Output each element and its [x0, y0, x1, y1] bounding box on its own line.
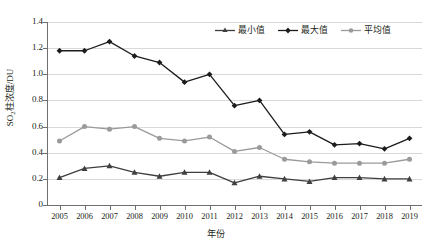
- data-point-marker: [382, 161, 387, 166]
- data-point-marker: [57, 138, 62, 143]
- data-point-marker: [332, 161, 337, 166]
- data-point-marker: [332, 142, 338, 148]
- data-point-marker: [182, 138, 187, 143]
- series-最小值: [57, 163, 413, 186]
- data-point-marker: [357, 161, 362, 166]
- legend-label-min: 最小值: [238, 24, 265, 36]
- data-point-marker: [82, 48, 88, 54]
- data-point-marker: [232, 149, 237, 154]
- legend-label-max: 最大值: [301, 24, 328, 36]
- series-line: [60, 127, 410, 164]
- x-axis-title: 年份: [0, 229, 432, 240]
- legend-swatch-max-icon: [278, 26, 298, 35]
- data-point-marker: [382, 146, 388, 152]
- chart-legend: 最小值 最大值 平均值: [215, 24, 391, 36]
- data-point-marker: [257, 145, 262, 150]
- data-point-marker: [82, 124, 87, 129]
- data-point-marker: [307, 159, 312, 164]
- series-line: [60, 42, 410, 149]
- data-point-marker: [307, 129, 313, 135]
- data-point-marker: [407, 157, 412, 162]
- data-point-marker: [57, 48, 63, 54]
- series-最大值: [57, 39, 413, 152]
- data-point-marker: [107, 39, 113, 45]
- legend-swatch-avg-icon: [341, 26, 361, 35]
- data-point-marker: [107, 127, 112, 132]
- data-point-marker: [357, 141, 363, 147]
- legend-swatch-min-icon: [215, 26, 235, 35]
- data-point-marker: [282, 157, 287, 162]
- legend-label-avg: 平均值: [364, 24, 391, 36]
- data-point-marker: [407, 135, 413, 141]
- legend-item-min[interactable]: 最小值: [215, 24, 265, 36]
- legend-item-max[interactable]: 最大值: [278, 24, 328, 36]
- legend-item-avg[interactable]: 平均值: [341, 24, 391, 36]
- data-point-marker: [157, 136, 162, 141]
- chart-container: SO2柱浓度/DU 00.20.40.60.81.01.21.4 2005200…: [0, 0, 432, 251]
- data-point-marker: [132, 53, 138, 59]
- data-point-marker: [132, 124, 137, 129]
- data-series-layer: [0, 0, 432, 251]
- data-point-marker: [207, 135, 212, 140]
